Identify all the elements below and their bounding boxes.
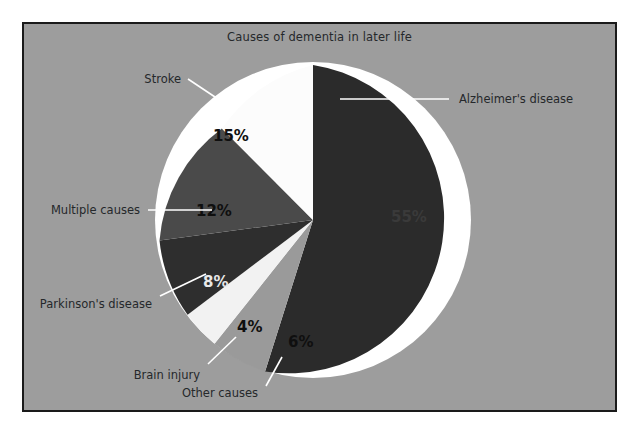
callout-label-alzheimers-disease: Alzheimer's disease xyxy=(459,92,573,106)
callout-label-stroke: Stroke xyxy=(144,72,181,86)
pie-value-label-multiple-causes: 12% xyxy=(196,202,232,220)
callout-label-other-causes: Other causes xyxy=(182,386,258,400)
pie-value-label-brain-injury: 4% xyxy=(237,318,262,336)
pie-value-label-alzheimers: 55% xyxy=(391,208,427,226)
pie-value-label-stroke: 15% xyxy=(213,127,249,145)
pie-chart: 55% 15% 12% 8% 4% 6% Alzheimer's disease… xyxy=(0,0,639,435)
figure-canvas: Causes of dementia in later life 55% 15%… xyxy=(0,0,639,435)
pie-value-label-other-causes: 6% xyxy=(288,333,313,351)
callout-label-brain-injury: Brain injury xyxy=(134,368,200,382)
callout-label-parkinsons-disease: Parkinson's disease xyxy=(40,297,152,311)
callout-label-multiple-causes: Multiple causes xyxy=(51,203,140,217)
pie-value-label-parkinsons: 8% xyxy=(203,273,228,291)
